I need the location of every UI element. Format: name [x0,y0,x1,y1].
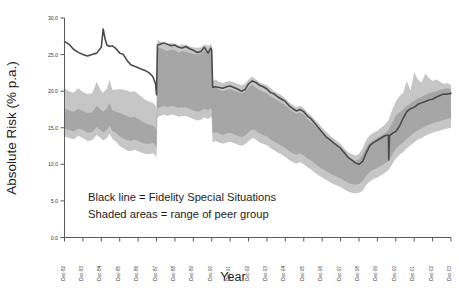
x-tick-label: Dec-86 [134,266,139,281]
x-tick-label: Dec-99 [373,266,378,281]
x-tick-label: Dec-00 [392,266,397,281]
legend-band-annotation: Shaded areas = range of peer group [88,208,269,220]
x-tick-label: Dec-82 [61,266,66,281]
x-tick-label: Dec-97 [337,266,342,281]
legend-line-annotation: Black line = Fidelity Special Situations [88,191,277,203]
y-tick-label: 30.0 [48,15,58,21]
x-tick-label: Dec-01 [410,266,415,281]
y-tick-label: 5.0 [51,198,58,204]
x-tick-label: Dec-90 [208,266,213,281]
x-tick-label: Dec-85 [116,266,121,281]
x-tick-label: Dec-02 [429,266,434,281]
x-tick-label: Dec-89 [189,266,194,281]
y-tick-label: 0.0 [51,235,58,241]
x-tick-label: Dec-88 [171,266,176,281]
x-tick-label: Dec-95 [300,266,305,281]
x-tick-label: Dec-94 [281,266,286,281]
y-tick-label: 20.0 [48,88,58,94]
x-tick-label: Dec-83 [79,266,84,281]
y-tick-label: 10.0 [48,161,58,167]
x-tick-label: Dec-93 [263,266,268,281]
y-tick-label: 25.0 [48,52,58,58]
chart-canvas: 0.05.010.015.020.025.030.0 Dec-82Dec-83D… [0,0,459,288]
x-tick-label: Dec-98 [355,266,360,281]
x-tick-label: Dec-96 [318,266,323,281]
x-axis-title: Year [220,270,245,284]
y-tick-label: 15.0 [48,125,58,131]
y-axis-title: Absolute Risk (% p.a.) [4,61,19,195]
x-tick-label: Dec-03 [447,266,452,281]
x-tick-label: Dec-84 [97,266,102,281]
x-tick-label: Dec-87 [153,266,158,281]
risk-chart-figure: 0.05.010.015.020.025.030.0 Dec-82Dec-83D… [0,0,459,288]
